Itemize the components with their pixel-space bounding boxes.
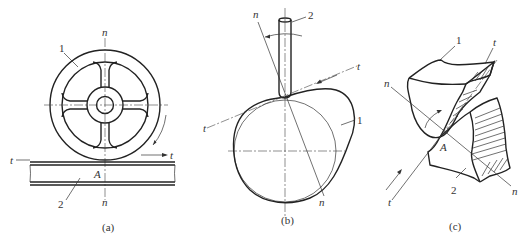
contact-point-label: A (93, 168, 101, 180)
panel-b: n n 2 1 t t (b) (203, 8, 363, 227)
part-label-2: 2 (58, 198, 64, 210)
tangent-label-right: t (170, 149, 174, 161)
panel-a: n n 1 2 t t A (a) (10, 26, 175, 234)
part-label-2: 2 (308, 9, 314, 21)
tangent-label-top: t (493, 36, 497, 48)
tangent-label-left: t (10, 154, 14, 166)
normal-label-top: n (102, 26, 108, 38)
higher-pair-figure: n n 1 2 t t A (a) n (0, 0, 529, 247)
tangent-label-left: t (203, 122, 207, 134)
tangent-label-bottom: t (388, 196, 392, 208)
tangent-label-right: t (357, 60, 361, 72)
part-label-1: 1 (59, 42, 65, 54)
contact-point-label: A (439, 141, 447, 153)
normal-label-bottom: n (102, 196, 108, 208)
rail (30, 162, 175, 185)
caption-c: (c) (449, 220, 462, 233)
caption-a: (a) (102, 221, 115, 234)
cam-profile (234, 89, 355, 203)
normal-label-top: n (384, 77, 390, 89)
caption-b: (b) (281, 214, 294, 227)
normal-label-bottom: n (512, 185, 518, 197)
normal-label-top: n (253, 8, 259, 20)
normal-label-bottom: n (319, 196, 325, 208)
part-label-1: 1 (456, 34, 462, 46)
tooth-1 (407, 60, 494, 138)
panel-c: 1 t n n A 2 t (c) (384, 34, 518, 233)
part-label-2: 2 (451, 184, 457, 196)
part-label-1: 1 (357, 114, 363, 126)
